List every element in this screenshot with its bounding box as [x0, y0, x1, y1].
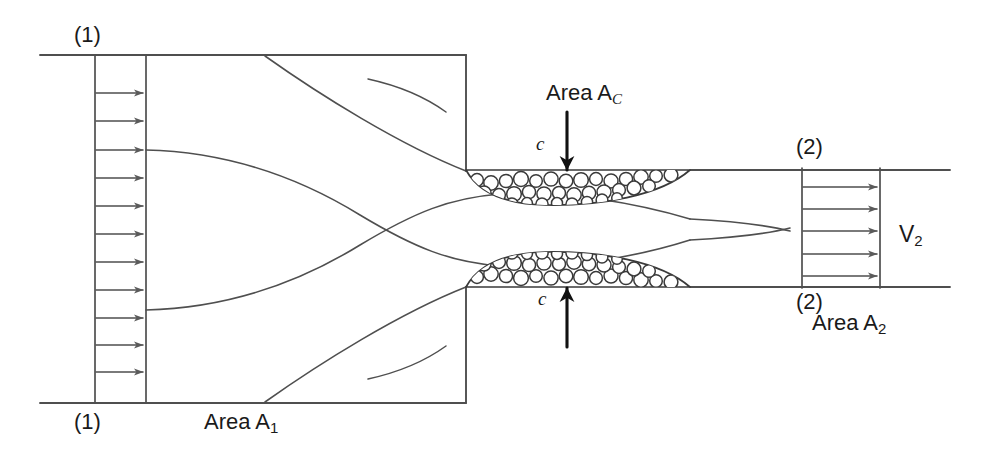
corner-diagonal-lower: [265, 287, 466, 402]
eddy-arc-upper: [368, 79, 446, 112]
corner-diagonal-upper: [265, 56, 466, 171]
contraction-label-upper: c: [536, 134, 544, 153]
velocity-2-subscript: 2: [914, 232, 922, 249]
velocity-2-text: V: [899, 221, 914, 247]
streamline-jet-lower: [690, 219, 790, 231]
diagram-canvas: (1) (1) Area A1 Area AC c c (2) (2) Area…: [0, 0, 990, 457]
area-c-text: Area A: [546, 80, 612, 105]
outlet-velocity-arrows: [803, 187, 877, 276]
lower-separation-bubble: [466, 247, 690, 289]
area-2-subscript: 2: [878, 320, 886, 337]
streamline-lower-outer: [146, 193, 690, 310]
area-2-label: Area A2: [812, 312, 886, 336]
area-c-label: Area AC: [546, 82, 622, 107]
area-1-text: Area A: [204, 409, 270, 434]
velocity-2-label: V2: [899, 223, 923, 248]
inlet-velocity-arrows: [96, 93, 143, 372]
section-label-1-top: (1): [74, 24, 101, 46]
streamline-jet-upper: [690, 228, 790, 240]
area-1-subscript: 1: [270, 419, 278, 436]
section-label-2-top: (2): [796, 136, 823, 158]
area-2-text: Area A: [812, 310, 878, 335]
area-1-label: Area A1: [204, 411, 278, 435]
area-c-subscript: C: [612, 91, 622, 107]
upper-separation-bubble: [466, 168, 690, 210]
streamline-upper-outer: [146, 150, 690, 267]
eddy-arc-lower: [368, 346, 446, 379]
contraction-label-lower: c: [538, 289, 546, 308]
section-label-1-bottom: (1): [74, 411, 101, 433]
diagram-vector-layer: [0, 0, 990, 457]
